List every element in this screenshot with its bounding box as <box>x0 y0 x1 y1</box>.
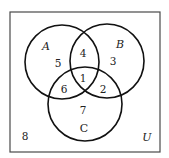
region-a-and-b: 4 <box>80 47 87 59</box>
venn-diagram: A B C 5 4 3 1 6 2 7 8 U <box>0 0 169 158</box>
region-a-and-c: 6 <box>61 83 68 95</box>
region-b-only: 3 <box>110 55 117 67</box>
region-b-and-c: 2 <box>100 83 107 95</box>
set-a-label: A <box>41 40 50 53</box>
set-b-circle <box>70 24 144 98</box>
universe-label: U <box>142 131 152 144</box>
region-a-only: 5 <box>55 57 62 69</box>
region-c-only: 7 <box>80 104 87 116</box>
region-a-b-c: 1 <box>80 72 87 84</box>
region-outside: 8 <box>22 130 29 142</box>
set-c-label: C <box>80 122 88 135</box>
set-b-label: B <box>115 38 124 51</box>
